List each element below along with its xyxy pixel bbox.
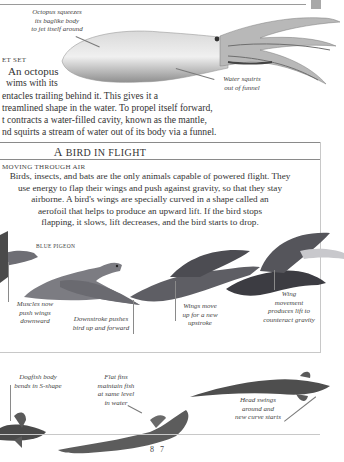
paragraph-line: Birds, insects, and bats are the only an… bbox=[0, 171, 300, 183]
paragraph-line: use energy to flap their wings and push … bbox=[0, 183, 300, 195]
callout-line: produces lift to bbox=[254, 307, 324, 316]
paragraph-line: t contracts a water-filled cavity, known… bbox=[2, 114, 342, 126]
callout-wing-movement: Wing movement produces lift to counterac… bbox=[254, 290, 324, 324]
leader-line bbox=[8, 262, 9, 302]
callout-downstroke: Downstroke pushes bird up and forward bbox=[68, 315, 134, 332]
callout-line: downward bbox=[10, 317, 60, 326]
callout-line: Octopus squeezes bbox=[22, 8, 92, 17]
callout-line: to jet itself around bbox=[22, 25, 92, 34]
title-rest: BIRD IN FLIGHT bbox=[66, 147, 147, 158]
leader-line bbox=[274, 270, 275, 290]
title-initial: A bbox=[54, 145, 63, 159]
paragraph-line: airborne. A bird's wings are specially c… bbox=[0, 194, 300, 206]
callout-line: bird up and forward bbox=[68, 324, 134, 333]
callout-line: up for a new bbox=[176, 311, 224, 320]
callout-line: counteract gravity bbox=[254, 316, 324, 325]
bottom-rule bbox=[0, 434, 320, 435]
callout-line: Flat fins bbox=[94, 373, 138, 382]
callout-line: Dogfish body bbox=[10, 373, 66, 382]
paragraph-line: nd squirts a stream of water out of its … bbox=[2, 126, 342, 138]
paragraph-line: treamlined shape in the water. To propel… bbox=[2, 102, 342, 114]
callout-line: Downstroke pushes bbox=[68, 315, 134, 324]
callout-line: around and bbox=[230, 405, 286, 414]
paragraph-line: An octopus bbox=[2, 65, 342, 77]
octopus-heading: ET SET bbox=[2, 56, 26, 64]
callout-dogfish-body: Dogfish body bends in S-shape bbox=[10, 373, 66, 390]
paragraph-line: entacles trailing behind it. This gives … bbox=[2, 90, 342, 102]
callout-line: maintain fish bbox=[94, 382, 138, 391]
paragraph-line: wims with its bbox=[2, 77, 342, 89]
callout-line: Head swings bbox=[230, 396, 286, 405]
callout-line: upstroke bbox=[176, 319, 224, 328]
callout-line: in water bbox=[94, 399, 138, 408]
callout-octopus-squeezes: Octopus squeezes its baglike body to jet… bbox=[22, 8, 92, 34]
callout-line: at same level bbox=[94, 390, 138, 399]
callout-wings-move-up: Wings move up for a new upstroke bbox=[176, 302, 224, 328]
callout-line: its baglike body bbox=[22, 17, 92, 26]
bird-paragraph: Birds, insects, and bats are the only an… bbox=[0, 171, 300, 229]
bird-panel-title: A BIRD IN FLIGHT bbox=[0, 145, 200, 160]
callout-line: Muscles now bbox=[10, 300, 60, 309]
callout-head-swings: Head swings around and new curve starts bbox=[230, 396, 286, 422]
top-rule bbox=[0, 4, 306, 5]
callout-line: new curve starts bbox=[230, 413, 286, 422]
callout-line: Wings move bbox=[176, 302, 224, 311]
page-number: 8 7 bbox=[150, 445, 166, 454]
octopus-paragraph: An octopus wims with its entacles traili… bbox=[2, 65, 342, 139]
leader-line bbox=[10, 385, 11, 421]
callout-muscles: Muscles now push wings downward bbox=[10, 300, 60, 326]
bird-subheading: MOVING THROUGH AIR bbox=[2, 163, 85, 171]
callout-line: movement bbox=[254, 299, 324, 308]
callout-flat-fins: Flat fins maintain fish at same level in… bbox=[94, 373, 138, 407]
paragraph-line: aerofoil that helps to produce an upward… bbox=[0, 206, 300, 218]
callout-line: push wings bbox=[10, 309, 60, 318]
callout-line: Wing bbox=[254, 290, 324, 299]
callout-line: bends in S-shape bbox=[10, 382, 66, 391]
